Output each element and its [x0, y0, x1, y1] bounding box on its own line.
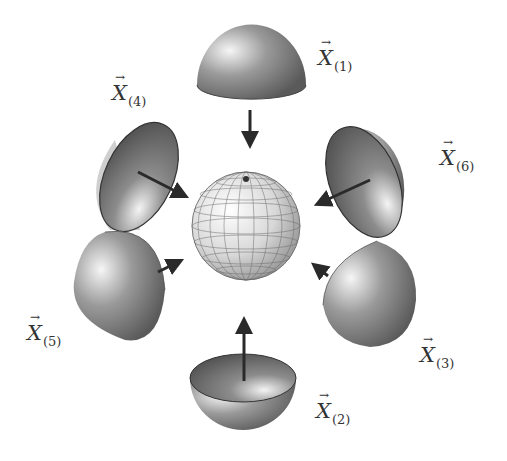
label-x3: X(3) [420, 345, 454, 366]
hemisphere-piece-4 [84, 110, 195, 244]
label-x5: X(5) [27, 323, 61, 344]
hemisphere-piece-2 [190, 325, 296, 430]
label-x1: X(1) [318, 48, 352, 69]
arrow-3 [318, 268, 328, 276]
label-x4: X(4) [112, 83, 146, 104]
grid-sphere [192, 172, 300, 280]
hemisphere-piece-3 [318, 241, 416, 347]
label-x2: X(2) [316, 401, 350, 422]
hemisphere-piece-1 [197, 24, 306, 140]
hemisphere-piece-5 [74, 231, 176, 340]
hemisphere-assembly-diagram [0, 0, 507, 461]
hemisphere-piece-6 [311, 115, 418, 248]
label-x6: X(6) [440, 148, 474, 169]
